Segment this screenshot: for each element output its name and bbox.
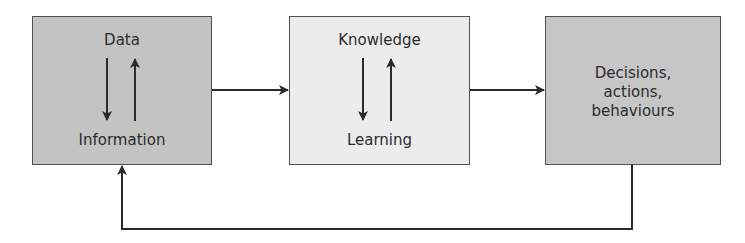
connectors	[0, 0, 745, 243]
arrow-feedback-loop	[122, 165, 632, 229]
